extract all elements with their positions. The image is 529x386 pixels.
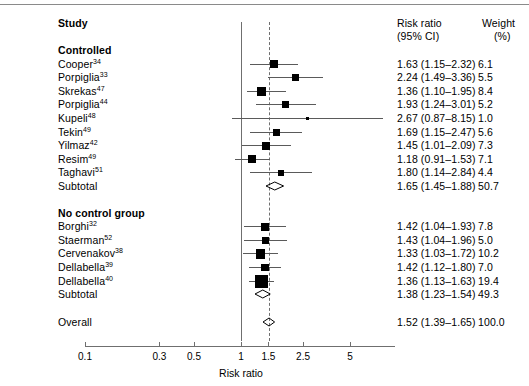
confidence-interval-line bbox=[247, 91, 286, 92]
axis-line bbox=[85, 346, 395, 347]
axis-tick bbox=[194, 342, 195, 346]
risk-ratio-value: 1.93 (1.24–3.01) bbox=[397, 99, 476, 110]
reference-superscript: 40 bbox=[105, 274, 113, 281]
overall-label: Overall bbox=[58, 317, 92, 328]
study-label: Borghi32 bbox=[58, 221, 97, 232]
study-label: Dellabella39 bbox=[58, 262, 113, 273]
overall-diamond bbox=[261, 317, 277, 327]
weight-value: 7.1 bbox=[478, 154, 493, 165]
reference-superscript: 39 bbox=[105, 261, 113, 268]
risk-ratio-value: 1.69 (1.15–2.47) bbox=[397, 127, 476, 138]
study-label: Resim49 bbox=[58, 154, 96, 165]
weight-value: 5.0 bbox=[478, 235, 493, 246]
axis-tick bbox=[85, 342, 86, 346]
effect-size-box bbox=[292, 74, 299, 81]
study-label: Staerman52 bbox=[58, 235, 112, 246]
subtotal-weight: 50.7 bbox=[478, 181, 499, 192]
effect-size-box bbox=[282, 101, 289, 108]
reference-superscript: 34 bbox=[93, 57, 101, 64]
axis-tick-label: 1 bbox=[238, 351, 244, 362]
axis-tick-label: 5 bbox=[347, 351, 353, 362]
risk-ratio-value: 1.18 (0.91–1.53) bbox=[397, 154, 476, 165]
axis-tick bbox=[303, 342, 304, 346]
study-label: Kupeli48 bbox=[58, 113, 96, 124]
weight-value: 5.5 bbox=[478, 72, 493, 83]
axis-tick bbox=[241, 342, 242, 346]
weight-value: 10.2 bbox=[478, 248, 499, 259]
subtotal-diamond bbox=[264, 181, 286, 191]
axis-title: Risk ratio bbox=[219, 367, 263, 379]
group-heading-1: Controlled bbox=[58, 45, 112, 56]
reference-superscript: 44 bbox=[100, 98, 108, 105]
group-heading-2: No control group bbox=[58, 208, 145, 219]
reference-superscript: 48 bbox=[88, 112, 96, 119]
axis-tick-label: 0.3 bbox=[152, 351, 166, 362]
reference-superscript: 47 bbox=[97, 84, 105, 91]
reference-superscript: 52 bbox=[104, 233, 112, 240]
study-label: Cooper34 bbox=[58, 59, 101, 70]
weight-value: 7.3 bbox=[478, 140, 493, 151]
subtotal-weight: 49.3 bbox=[478, 289, 499, 300]
risk-ratio-value: 1.36 (1.10–1.95) bbox=[397, 86, 476, 97]
effect-size-box bbox=[248, 155, 256, 163]
overall-risk-ratio: 1.52 (1.39–1.65) bbox=[397, 317, 476, 328]
reference-superscript: 38 bbox=[115, 247, 123, 254]
forest-plot-figure: Study Risk ratio (95% CI) Weight (%) Con… bbox=[0, 0, 529, 386]
reference-superscript: 33 bbox=[100, 71, 108, 78]
study-label: Cervenakov38 bbox=[58, 248, 123, 259]
weight-value: 5.2 bbox=[478, 99, 493, 110]
subtotal-label: Subtotal bbox=[58, 289, 97, 300]
effect-size-box bbox=[261, 264, 269, 272]
weight-value: 4.4 bbox=[478, 167, 493, 178]
weight-value: 5.6 bbox=[478, 127, 493, 138]
effect-size-box bbox=[256, 249, 266, 259]
weight-value: 19.4 bbox=[478, 276, 499, 287]
effect-size-box bbox=[262, 237, 269, 244]
effect-size-box bbox=[262, 142, 270, 150]
study-label: Tekin49 bbox=[58, 127, 91, 138]
effect-size-box bbox=[306, 117, 309, 120]
subtotal-risk-ratio: 1.65 (1.45–1.88) bbox=[397, 181, 476, 192]
risk-ratio-value: 1.43 (1.04–1.96) bbox=[397, 235, 476, 246]
study-label: Skrekas47 bbox=[58, 86, 105, 97]
reference-superscript: 42 bbox=[90, 139, 98, 146]
axis-tick-label: 1.5 bbox=[261, 351, 275, 362]
reference-superscript: 32 bbox=[89, 220, 97, 227]
study-label: Porpiglia44 bbox=[58, 99, 108, 110]
risk-ratio-value: 1.36 (1.13–1.63) bbox=[397, 276, 476, 287]
effect-size-box bbox=[257, 87, 266, 96]
weight-value: 6.1 bbox=[478, 59, 493, 70]
effect-size-box bbox=[278, 170, 284, 176]
overall-weight: 100.0 bbox=[478, 317, 505, 328]
reference-superscript: 49 bbox=[83, 125, 91, 132]
subtotal-risk-ratio: 1.38 (1.23–1.54) bbox=[397, 289, 476, 300]
effect-size-box bbox=[270, 60, 277, 67]
null-reference-line bbox=[241, 22, 242, 341]
effect-size-box bbox=[273, 129, 280, 136]
weight-value: 7.8 bbox=[478, 221, 493, 232]
risk-ratio-value: 1.33 (1.03–1.72) bbox=[397, 248, 476, 259]
weight-value: 8.4 bbox=[478, 86, 493, 97]
risk-ratio-value: 1.42 (1.12–1.80) bbox=[397, 262, 476, 273]
weight-value: 7.0 bbox=[478, 262, 493, 273]
study-label: Dellabella40 bbox=[58, 276, 113, 287]
effect-size-box bbox=[255, 275, 268, 288]
axis-tick bbox=[268, 342, 269, 346]
subtotal-label: Subtotal bbox=[58, 181, 97, 192]
axis-tick bbox=[159, 342, 160, 346]
axis-tick bbox=[350, 342, 351, 346]
risk-ratio-value: 1.42 (1.04–1.93) bbox=[397, 221, 476, 232]
axis-tick-label: 0.5 bbox=[187, 351, 201, 362]
risk-ratio-value: 2.24 (1.49–3.36) bbox=[397, 72, 476, 83]
study-label: Yilmaz42 bbox=[58, 140, 98, 151]
reference-superscript: 51 bbox=[95, 166, 103, 173]
subtotal-diamond bbox=[253, 289, 272, 299]
weight-value: 1.0 bbox=[478, 113, 493, 124]
study-label: Taghavi51 bbox=[58, 167, 103, 178]
effect-size-box bbox=[261, 223, 269, 231]
axis-tick-label: 0.1 bbox=[78, 351, 92, 362]
study-label: Porpiglia33 bbox=[58, 72, 108, 83]
axis-tick-label: 2.5 bbox=[296, 351, 310, 362]
reference-superscript: 49 bbox=[88, 152, 96, 159]
risk-ratio-value: 1.63 (1.15–2.32) bbox=[397, 59, 476, 70]
